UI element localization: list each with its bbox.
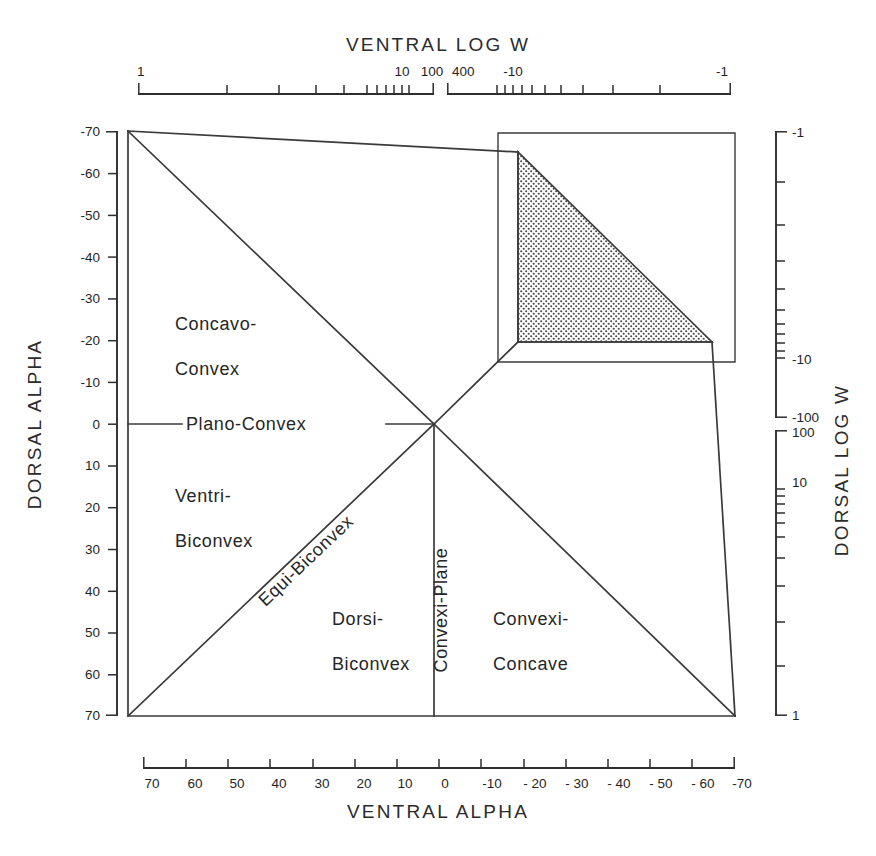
top-axis-left-tick-10: 10 (394, 64, 409, 79)
region-label-ventri-biconvex-line1: Ventri- (175, 486, 231, 506)
region-label-convexi-plane: Convexi-Plane (431, 548, 451, 673)
left-axis-tick--10: -10 (80, 375, 100, 390)
left-axis-tick--20: -20 (80, 333, 100, 348)
diagram-canvas: VENTRAL LOG W 1 10 100 (0, 0, 876, 856)
region-label-convexi-concave-line2: Concave (493, 654, 568, 674)
bottom-axis-tick-30: 30 (314, 776, 329, 791)
left-axis-tick-10: 10 (85, 458, 100, 473)
bottom-axis-tick--70: -70 (732, 776, 752, 791)
left-axis-tick-20: 20 (85, 500, 100, 515)
bottom-axis-tick--10: -10 (482, 776, 502, 791)
right-axis-tick-1: 1 (792, 708, 800, 723)
bottom-axis-tick-60: 60 (187, 776, 202, 791)
region-labels: Concavo- Convex Plano-Convex Ventri- Bic… (175, 314, 569, 674)
bottom-axis-tick--60: - 60 (691, 776, 714, 791)
top-axis-left-segment: 1 10 100 (137, 64, 443, 94)
region-label-concavo-convex-line1: Concavo- (175, 314, 257, 334)
top-axis-title: VENTRAL LOG W (346, 34, 530, 55)
region-label-plano-convex: Plano-Convex (186, 414, 306, 434)
top-axis-right-tick-neg1: -1 (716, 64, 728, 79)
region-label-ventri-biconvex-line2: Biconvex (175, 531, 253, 551)
region-label-dorsi-biconvex-line1: Dorsi- (332, 609, 384, 629)
left-axis: -70 -60 -50 -40 -30 -20 -10 0 10 20 30 4… (24, 124, 117, 723)
shaded-occupied-field (518, 152, 712, 342)
right-axis-lower-segment: 100 10 1 DORSAL LOG W (776, 384, 852, 723)
top-axis-left-tick-100: 100 (421, 64, 444, 79)
right-axis-tick--10: -10 (792, 352, 812, 367)
bottom-axis-tick--20: - 20 (523, 776, 546, 791)
region-label-dorsi-biconvex-line2: Biconvex (332, 654, 410, 674)
bottom-axis: 70 60 50 40 30 20 10 0 -10 - 20 - 30 - 4… (143, 757, 752, 822)
right-axis-tick-100: 100 (792, 425, 815, 440)
left-axis-tick-30: 30 (85, 542, 100, 557)
left-axis-tick-60: 60 (85, 667, 100, 682)
left-axis-tick--70: -70 (80, 124, 100, 139)
left-axis-tick--40: -40 (80, 250, 100, 265)
left-axis-tick-50: 50 (85, 625, 100, 640)
bottom-axis-tick-50: 50 (229, 776, 244, 791)
left-axis-tick-0: 0 (92, 417, 100, 432)
top-axis-right-tick-neg10: -10 (503, 64, 523, 79)
bottom-axis-title: VENTRAL ALPHA (347, 801, 529, 822)
left-axis-title: DORSAL ALPHA (24, 339, 45, 509)
region-label-equi-biconvex: Equi-Biconvex (254, 511, 357, 610)
shaded-field-polygon (518, 152, 712, 342)
right-axis-title: DORSAL LOG W (831, 384, 852, 556)
region-label-convexi-concave-line1: Convexi- (493, 609, 569, 629)
bottom-axis-tick-20: 20 (356, 776, 371, 791)
bottom-axis-tick-40: 40 (271, 776, 286, 791)
left-axis-tick--50: -50 (80, 208, 100, 223)
right-axis-tick--1: -1 (792, 125, 804, 140)
top-axis-right-tick-400: 400 (452, 64, 475, 79)
top-axis-left-tick-1: 1 (137, 64, 145, 79)
bottom-axis-tick-70: 70 (144, 776, 159, 791)
region-label-concavo-convex-line2: Convex (175, 359, 240, 379)
top-axis-right-segment: 400 -10 -1 (447, 64, 731, 94)
right-axis-tick--100: -100 (792, 410, 819, 425)
right-axis-tick-10: 10 (792, 475, 807, 490)
morphometric-field-diagram: VENTRAL LOG W 1 10 100 (0, 0, 876, 856)
left-axis-tick--60: -60 (80, 166, 100, 181)
bottom-axis-tick--40: - 40 (607, 776, 630, 791)
bottom-axis-tick--50: - 50 (649, 776, 672, 791)
left-axis-tick-40: 40 (85, 584, 100, 599)
right-axis-upper-segment: -1 -10 -100 (776, 125, 819, 425)
bottom-axis-tick-10: 10 (397, 776, 412, 791)
left-axis-tick--30: -30 (80, 291, 100, 306)
left-axis-tick-70: 70 (85, 708, 100, 723)
bottom-axis-tick--30: - 30 (565, 776, 588, 791)
bottom-axis-tick-0: 0 (441, 776, 449, 791)
